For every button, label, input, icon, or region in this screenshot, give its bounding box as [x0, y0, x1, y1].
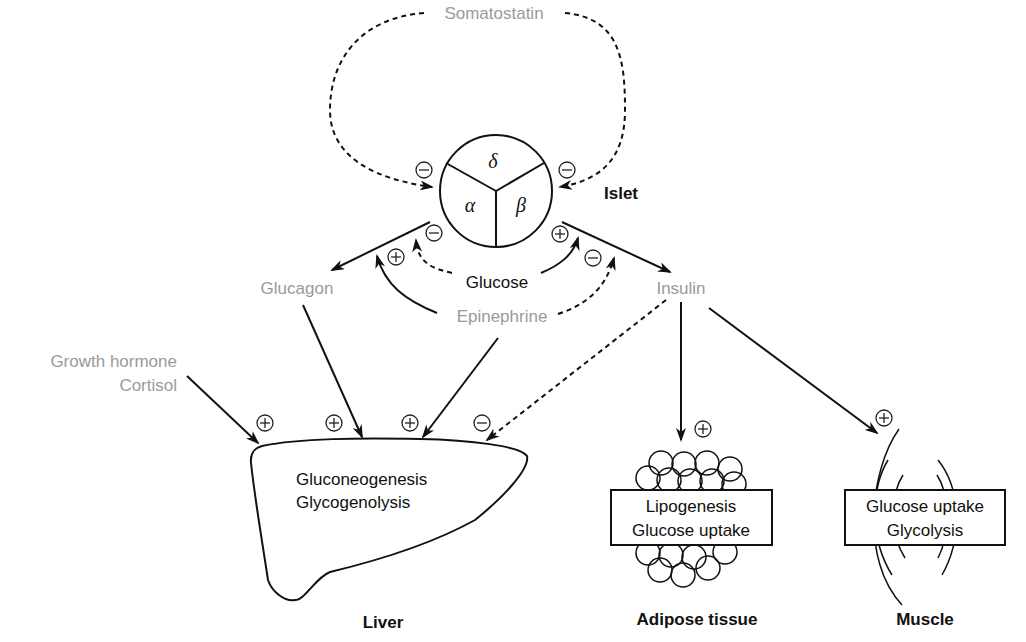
somatostatin-loop-left	[330, 13, 432, 187]
beta-cell-label: β	[515, 194, 526, 217]
minus-sign-icon	[474, 415, 490, 431]
liver-process-1: Gluconeogenesis	[296, 470, 427, 489]
somatostatin-loop-right	[560, 13, 625, 187]
alpha-to-glucagon-arrow	[332, 222, 430, 270]
glucagon-label: Glucagon	[261, 279, 334, 298]
plus-sign-icon	[388, 249, 404, 265]
muscle-process-1: Glucose uptake	[866, 497, 984, 516]
plus-sign-icon	[552, 226, 568, 242]
beta-to-insulin-arrow	[562, 222, 670, 272]
insulin-label: Insulin	[656, 279, 705, 298]
glucose-to-beta-arrow	[541, 238, 578, 273]
islet-label: Islet	[604, 184, 638, 203]
muscle-process-2: Glycolysis	[887, 521, 964, 540]
insulin-to-muscle-arrow	[709, 308, 877, 433]
adipose-process-1: Lipogenesis	[646, 497, 737, 516]
liver-shape	[251, 439, 527, 601]
minus-sign-icon	[559, 162, 575, 178]
plus-sign-icon	[402, 415, 418, 431]
muscle-label: Muscle	[896, 610, 954, 629]
minus-sign-icon	[585, 250, 601, 266]
cortisol-label: Cortisol	[119, 376, 177, 395]
plus-sign-icon	[257, 415, 273, 431]
somatostatin-label: Somatostatin	[444, 4, 543, 23]
glucose-regulation-diagram: Somatostatin δ α β Islet Glucagon Glucos…	[0, 0, 1026, 642]
delta-cell-label: δ	[488, 150, 498, 172]
growth-hormone-label: Growth hormone	[50, 352, 177, 371]
liver-label: Liver	[363, 613, 404, 632]
minus-sign-icon	[416, 162, 432, 178]
epinephrine-to-alpha-arrow	[377, 256, 437, 313]
plus-sign-icon	[326, 415, 342, 431]
epinephrine-label: Epinephrine	[457, 307, 548, 326]
glucose-to-alpha-arrow	[416, 240, 452, 273]
plus-sign-icon	[695, 421, 711, 437]
glucose-label: Glucose	[466, 273, 528, 292]
plus-sign-icon	[876, 410, 892, 426]
epinephrine-to-beta-arrow	[558, 258, 614, 314]
adipose-process-2: Glucose uptake	[632, 521, 750, 540]
gh-cortisol-to-liver-arrow	[187, 376, 258, 443]
islet-circle: δ α β	[440, 135, 552, 247]
liver-process-2: Glycogenolysis	[296, 493, 410, 512]
adipose-label: Adipose tissue	[637, 610, 758, 629]
minus-sign-icon	[426, 225, 442, 241]
alpha-cell-label: α	[465, 194, 476, 216]
